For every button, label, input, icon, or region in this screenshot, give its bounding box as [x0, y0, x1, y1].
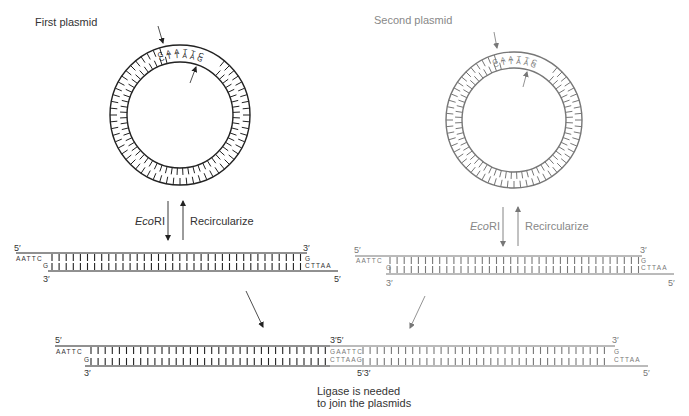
right-linear-fragment: 5′ 3′ 3′ 5′ AATTC G G CTTAA — [354, 245, 675, 288]
second-plasmid-top-cut-arrow — [494, 32, 497, 48]
svg-text:A: A — [182, 52, 188, 59]
ecori-label-right: EcoRI — [470, 220, 500, 232]
svg-text:T: T — [175, 52, 180, 59]
joined-molecule: 5′ 3′5′ 3′ 3′ 5′3′ 5′ AATTC G GAATTC CTT… — [55, 335, 650, 378]
joined-junction-top-label: 3′5′ — [330, 335, 344, 345]
svg-text:G: G — [530, 61, 537, 69]
right-frag-3prime-bottom: 3′ — [386, 278, 393, 288]
svg-text:A: A — [189, 53, 195, 61]
plasmid-ligation-diagram: First plasmid Second plasmid GCATATTATAC… — [0, 0, 689, 416]
ligase-caption-line2: to join the plasmids — [317, 397, 412, 409]
second-plasmid-circle: GCATATTATACG — [446, 52, 582, 188]
first-plasmid-title: First plasmid — [35, 16, 97, 28]
joined-right-g: G — [614, 348, 620, 355]
left-frag-right-g: G — [305, 255, 311, 262]
joined-right-overhang: CTTAA — [614, 356, 641, 363]
first-plasmid-top-cut-arrow — [158, 26, 163, 43]
first-plasmid-bottom-cut-arrow — [190, 67, 196, 83]
svg-text:A: A — [523, 59, 529, 67]
svg-text:T: T — [501, 59, 507, 67]
join-arrow-left — [246, 291, 263, 327]
svg-text:C: C — [492, 60, 499, 68]
joined-left-overhang: AATTC — [56, 348, 83, 355]
right-frag-right-overhang: CTTAA — [641, 264, 668, 271]
svg-text:G: G — [196, 55, 203, 63]
joined-junction-bottom-label: 5′3′ — [357, 368, 371, 378]
joined-5prime-bottom: 5′ — [643, 368, 650, 378]
left-frag-right-overhang: CTTAA — [305, 262, 332, 269]
svg-text:C: C — [158, 54, 165, 62]
right-frag-3prime-top: 3′ — [640, 245, 647, 255]
left-frag-5prime-top: 5′ — [14, 243, 21, 253]
joined-3prime-bottom: 3′ — [84, 368, 91, 378]
ligase-caption-line1: Ligase is needed — [317, 385, 400, 397]
join-arrow-right — [410, 296, 425, 328]
recircularize-label-left: Recircularize — [190, 215, 254, 227]
first-plasmid-circle: GCATATTATACG — [110, 45, 250, 185]
right-frag-left-g: G — [386, 264, 392, 271]
right-frag-5prime-bottom: 5′ — [668, 278, 675, 288]
left-linear-fragment: 5′ 3′ 3′ 5′ AATTC G G CTTAA — [14, 243, 341, 284]
joined-junction-top-seq: GAATTC — [330, 348, 363, 355]
second-plasmid-bottom-cut-arrow — [523, 72, 527, 87]
left-frag-left-g: G — [43, 262, 49, 269]
right-frag-5prime-top: 5′ — [354, 245, 361, 255]
right-frag-left-overhang: AATTC — [356, 257, 383, 264]
joined-junction-bottom-seq: CTTAAG — [330, 356, 363, 363]
left-frag-3prime-top: 3′ — [303, 243, 310, 253]
recircularize-label-right: Recircularize — [525, 220, 589, 232]
right-frag-right-g: G — [641, 257, 647, 264]
left-frag-left-overhang: AATTC — [16, 255, 43, 262]
left-frag-3prime-bottom: 3′ — [43, 274, 50, 284]
svg-text:T: T — [166, 53, 172, 61]
ecori-label-left: EcoRI — [135, 215, 165, 227]
joined-left-g: G — [84, 356, 90, 363]
second-plasmid-title: Second plasmid — [374, 14, 452, 26]
svg-text:A: A — [516, 58, 522, 65]
joined-5prime-top: 5′ — [55, 335, 62, 345]
left-frag-5prime-bottom: 5′ — [334, 274, 341, 284]
joined-3prime-top: 3′ — [612, 335, 619, 345]
